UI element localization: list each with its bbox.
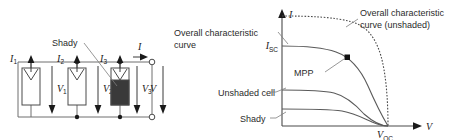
cell-3-current-label: I3 <box>99 53 107 65</box>
total-voltage-label: V <box>150 83 158 94</box>
shady-curve-label: Shady <box>240 114 266 124</box>
mpp-annotation: MPP <box>294 55 350 79</box>
cell-2-current-label: I2 <box>56 53 64 65</box>
voc-tick-label: VOC <box>377 129 393 140</box>
terminal-bottom <box>149 114 155 120</box>
cell-3-shaded-fill <box>111 80 129 105</box>
mpp-label: MPP <box>294 68 314 78</box>
shady-callout-label: Shady <box>52 38 78 48</box>
cell-1-current-label: I1 <box>9 53 17 65</box>
cell-1-current-arrowhead <box>28 55 35 63</box>
total-voltage-arrowhead <box>160 105 167 114</box>
overall-unshaded-label-line1: Overall characteristic <box>360 8 445 18</box>
y-axis-arrowhead <box>278 9 286 18</box>
cell-3-bottom-node <box>118 115 122 119</box>
terminal-top <box>149 59 155 65</box>
total-current-label: I <box>137 41 142 52</box>
shady-curve-leader <box>276 112 286 118</box>
cell-3-current-arrowhead <box>117 55 124 63</box>
cell-3-voltage-arrowhead <box>134 105 141 114</box>
y-axis-label: I <box>288 9 293 20</box>
isc-tick-label: ISC <box>265 40 279 53</box>
curve-overall <box>282 46 388 126</box>
mpp-marker <box>345 55 351 61</box>
curve-shady <box>282 109 388 126</box>
overall-curve-label-line1: Overall characteristic <box>174 28 259 38</box>
total-current-arrowhead <box>140 54 148 61</box>
solar-cell-characteristic-figure: I1 V1 I2 V2 <box>0 0 463 140</box>
cell-2-voltage-arrowhead <box>95 105 102 114</box>
shady-curve-annotation: Shady <box>240 112 286 124</box>
cell-1-voltage-arrowhead <box>49 105 56 114</box>
overall-unshaded-label-line2: curve (unshaded) <box>360 20 430 30</box>
cell-2-body <box>68 68 86 105</box>
shady-callout-leader <box>84 43 117 86</box>
overall-curve-unshaded-annotation: Overall characteristic curve (unshaded) <box>346 8 445 30</box>
cell-2-current-arrowhead <box>74 55 81 63</box>
mpp-leader <box>325 59 344 72</box>
overall-curve-label-line2: curve <box>174 40 196 50</box>
overall-curve-leader <box>278 32 288 44</box>
x-axis-label: V <box>426 121 434 132</box>
circuit-diagram: I1 V1 I2 V2 <box>0 0 170 140</box>
iv-characteristic-chart: I V ISC VOC MPP <box>170 0 463 140</box>
unshaded-cell-annotation: Unshaded cell <box>218 88 286 98</box>
cell-1-voltage-label: V1 <box>57 83 67 95</box>
cell-1-body <box>22 68 40 105</box>
cell-2-bottom-node <box>75 115 79 119</box>
x-axis-arrowhead <box>413 122 422 130</box>
unshaded-cell-label: Unshaded cell <box>218 88 275 98</box>
